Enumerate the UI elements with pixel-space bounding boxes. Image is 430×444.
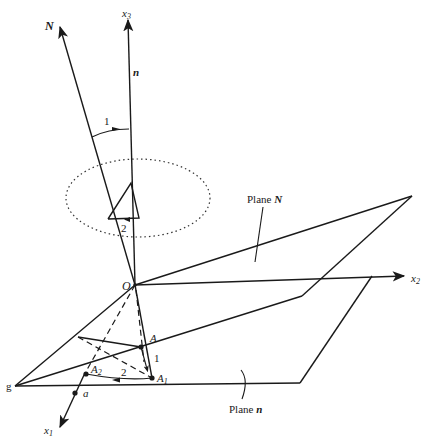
rotation-ellipse [66, 159, 210, 237]
point-A [138, 344, 143, 349]
label-A2: A2 [90, 363, 102, 377]
point-A1 [149, 375, 154, 380]
angle-1-arc-top [92, 127, 129, 137]
label-angle-2-bottom: 2 [121, 366, 127, 378]
plane-N-leader [255, 207, 263, 262]
label-angle-1-bottom: 1 [154, 352, 160, 364]
point-A2 [83, 371, 88, 376]
label-O: O [122, 279, 131, 293]
rotation-triangle [108, 183, 139, 222]
label-n: n [133, 66, 139, 78]
plane-N-outline [15, 196, 412, 386]
point-a [72, 390, 77, 395]
label-x1: x1 [43, 424, 53, 438]
N-axis [60, 27, 135, 285]
label-plane-n: Plane n [229, 403, 262, 415]
label-A: A [149, 332, 157, 344]
label-g: g [6, 380, 12, 392]
plane-n-leader [241, 370, 245, 399]
point-O [133, 283, 137, 287]
label-x3: x3 [121, 7, 131, 21]
label-plane-N: Plane N [247, 193, 283, 205]
label-angle-1-top: 1 [104, 115, 110, 127]
label-N: N [44, 19, 55, 33]
label-angle-2-top: 2 [121, 222, 127, 234]
x3-axis [128, 20, 135, 285]
x2-axis [135, 276, 404, 285]
label-A1: A1 [156, 372, 168, 386]
construction-lines [78, 285, 152, 383]
label-a: a [83, 387, 89, 399]
diagram-canvas: N x3 n 1 2 Plane N O x2 A 1 A2 2 A1 g a … [0, 0, 430, 444]
x1-axis [60, 285, 135, 427]
label-x2: x2 [410, 272, 420, 286]
